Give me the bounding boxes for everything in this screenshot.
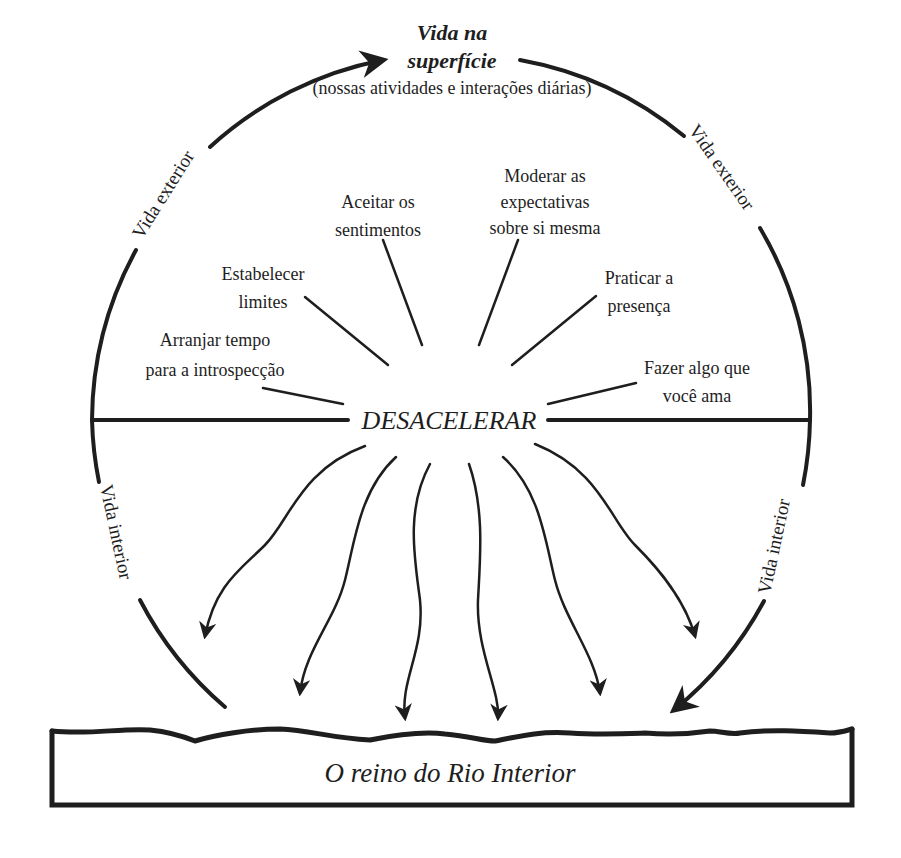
practice-sentimentos: Aceitar os sentimentos [335,192,421,240]
practice-presenca: Praticar a presença [605,268,673,316]
top-label: Vida na superfície (nossas atividades e … [313,20,592,99]
practice-label-line: presença [608,296,671,316]
arc-label-upper-right: Vida exterior [685,120,760,214]
connector-sentimentos [383,240,422,345]
arc-upper-right-lower-segment [760,228,810,420]
practice-label-line: Moderar as [504,166,585,186]
practice-expectativas: Moderar as expectativas sobre si mesma [490,166,601,238]
practice-label-line: sobre si mesma [490,218,601,238]
connector-limites [305,297,388,365]
arc-lower-right-upper-segment [803,420,810,485]
center-label: DESACELERAR [361,406,537,435]
arc-upper-left-lower-segment [92,250,136,420]
diagram-canvas: Vida exterior Vida exterior Vida interio… [0,0,901,858]
practice-label-line: para a introspecção [146,360,285,380]
connector-presenca [512,296,596,365]
arc-upper-left-arrow [210,60,383,147]
arc-upper-right-upper-segment [520,60,684,136]
wavy-arrow-1 [205,446,365,636]
practice-introspeccao: Arranjar tempo para a introspecção [146,330,285,380]
connector-lines [263,240,636,404]
wavy-arrow-4 [469,464,498,718]
box-wavy-top-edge [52,729,852,741]
practice-label-line: Estabelecer [222,264,305,284]
practice-limites: Estabelecer limites [222,264,305,312]
practice-label-line: Arranjar tempo [160,330,270,350]
practice-label-line: Praticar a [605,268,673,288]
downward-arrows [205,444,695,718]
practice-label-line: você ama [663,386,731,406]
practice-label-line: limites [239,292,288,312]
arc-label-lower-left: Vida interior [96,482,137,581]
practice-label-line: expectativas [501,192,590,212]
practice-label-line: Fazer algo que [644,358,750,378]
arc-lower-left-lower-segment [140,600,225,707]
wavy-arrow-2 [300,457,396,693]
top-label-subtitle: (nossas atividades e interações diárias) [313,78,592,99]
arc-lower-left-upper-segment [92,420,99,482]
wavy-arrow-3 [404,464,430,718]
wavy-arrow-5 [503,457,600,693]
wavy-arrow-6 [535,444,695,636]
arc-label-lower-right: Vida interior [753,496,794,595]
top-label-line2: superfície [406,48,496,73]
box-label: O reino do Rio Interior [325,758,576,788]
connector-fazer-algo [548,383,636,404]
top-label-line1: Vida na [417,20,487,45]
practice-fazer-algo: Fazer algo que você ama [644,358,750,406]
inner-river-box: O reino do Rio Interior [52,729,852,805]
practice-label-line: sentimentos [335,220,421,240]
connector-introspeccao [263,388,343,404]
arc-label-upper-left: Vida exterior [128,146,199,242]
practice-label-line: Aceitar os [341,192,414,212]
connector-expectativas [479,240,518,345]
